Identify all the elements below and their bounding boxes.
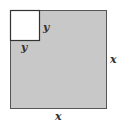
outer-square-right-label: x (109, 53, 117, 66)
square-diagram: y y x x (0, 0, 119, 125)
inner-square (11, 11, 40, 41)
outer-square-bottom-label: x (54, 110, 62, 123)
